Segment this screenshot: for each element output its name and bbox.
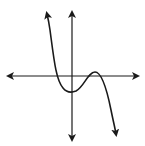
cubic-curve — [50, 30, 116, 134]
cubic-graph — [0, 0, 145, 146]
curve-left-end — [47, 14, 50, 30]
